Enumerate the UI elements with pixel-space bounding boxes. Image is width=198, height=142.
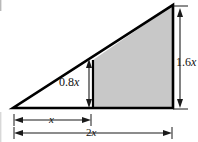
arrowhead-up-16x — [177, 8, 183, 17]
figure-canvas — [0, 0, 198, 142]
geometry-figure: 0.8x 1.6x x 2x — [0, 0, 198, 142]
label-full-base-variable: x — [92, 126, 97, 138]
frame-fragment-bottom-left — [0, 112, 1, 142]
label-left-height-number: 0.8 — [59, 75, 74, 89]
label-full-base: 2x — [86, 127, 96, 138]
shaded-region — [93, 5, 173, 108]
label-right-height-variable: x — [191, 55, 196, 69]
label-left-height-variable: x — [74, 75, 79, 89]
dimension-left-height — [86, 59, 92, 108]
arrowhead-right-2x — [163, 130, 172, 136]
arrowhead-down-16x — [177, 99, 183, 108]
arrowhead-left-2x — [14, 130, 23, 136]
arrowhead-down-08x — [86, 99, 92, 108]
label-right-height: 1.6x — [176, 56, 196, 68]
label-partial-base: x — [49, 114, 54, 125]
arrowhead-right-x — [82, 117, 91, 123]
label-partial-base-variable: x — [49, 113, 54, 125]
frame-fragment-top-left — [0, 0, 1, 11]
label-left-height: 0.8x — [59, 76, 79, 88]
arrowhead-left-x — [14, 117, 23, 123]
label-right-height-number: 1.6 — [176, 55, 191, 69]
